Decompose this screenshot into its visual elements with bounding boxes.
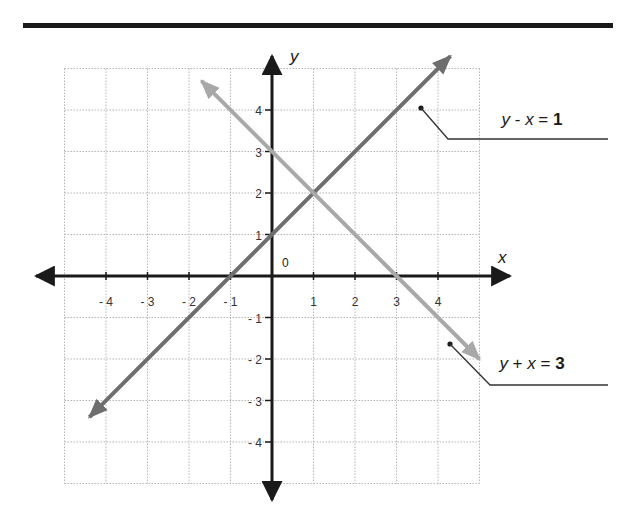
y-tick-label: 2 [255,187,262,201]
x-axis-label: x [497,248,507,267]
x-tick-label: 2 [352,295,359,309]
equation-label-part: 1 [553,110,562,129]
equation-label-part: 3 [555,354,564,373]
equation-label-part: + [508,354,527,373]
equation-label: y + x = 3 [498,354,564,373]
equation-label-part: x [524,110,534,129]
y-tick-label: - 2 [248,353,262,367]
y-tick-label: - 4 [248,436,262,450]
x-tick-label: - 4 [99,295,113,309]
x-tick-label: - 1 [223,295,237,309]
equation-label-part: - [510,110,525,129]
y-tick-label: 4 [255,104,262,118]
x-tick-label: 3 [393,295,400,309]
y-tick-label: 1 [255,229,262,243]
equation-label: y - x = 1 [501,110,563,129]
x-tick-label: 1 [310,295,317,309]
y-axis-label: y [289,47,300,66]
y-tick-label: - 1 [248,312,262,326]
origin-label: 0 [282,256,289,270]
equation-label-part: = [534,110,553,129]
x-tick-label: - 2 [182,295,196,309]
y-tick-label: 3 [255,146,262,160]
axes: xy0 [36,47,510,500]
x-tick-label: - 3 [140,295,154,309]
equation-label-part: = [536,354,555,373]
x-tick-label: 4 [435,295,442,309]
figure: xy0 - 4- 3- 2- 112344321- 1- 2- 3- 4 y -… [0,0,636,520]
equation-label-part: x [526,354,536,373]
y-tick-label: - 3 [248,395,262,409]
line-labels: y - x = 1y + x = 3 [418,105,608,385]
coordinate-plane: xy0 - 4- 3- 2- 112344321- 1- 2- 3- 4 y -… [0,0,636,520]
